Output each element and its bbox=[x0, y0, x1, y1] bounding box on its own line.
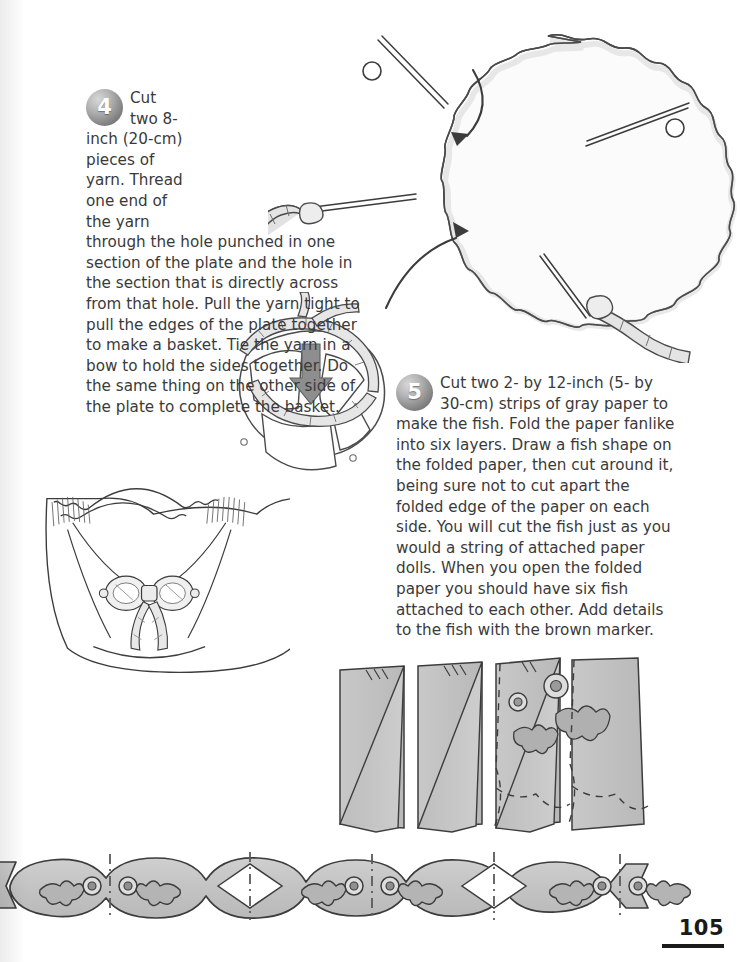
step-4-text: 4 Cut two 8-inch (20-cm) pieces of yarn.… bbox=[86, 88, 368, 418]
step-5-text: 5 Cut two 2- by 12-inch (5- by 30-cm) st… bbox=[396, 373, 679, 641]
finished-basket-illustration bbox=[28, 478, 290, 710]
page-number-rule bbox=[662, 944, 724, 948]
punched-hole bbox=[363, 62, 381, 80]
step-5-body: Cut two 2- by 12-inch (5- by 30-cm) stri… bbox=[396, 374, 674, 639]
page-number: 105 bbox=[662, 916, 724, 940]
scan-edge-shadow bbox=[0, 0, 26, 962]
step-4-badge: 4 bbox=[86, 89, 123, 126]
book-page: 4 Cut two 8-inch (20-cm) pieces of yarn.… bbox=[0, 0, 742, 962]
fish-chain-illustration bbox=[0, 840, 742, 932]
folded-fish-strip-illustration bbox=[332, 656, 654, 842]
punched-hole bbox=[666, 119, 684, 137]
step-5-badge: 5 bbox=[396, 374, 433, 411]
